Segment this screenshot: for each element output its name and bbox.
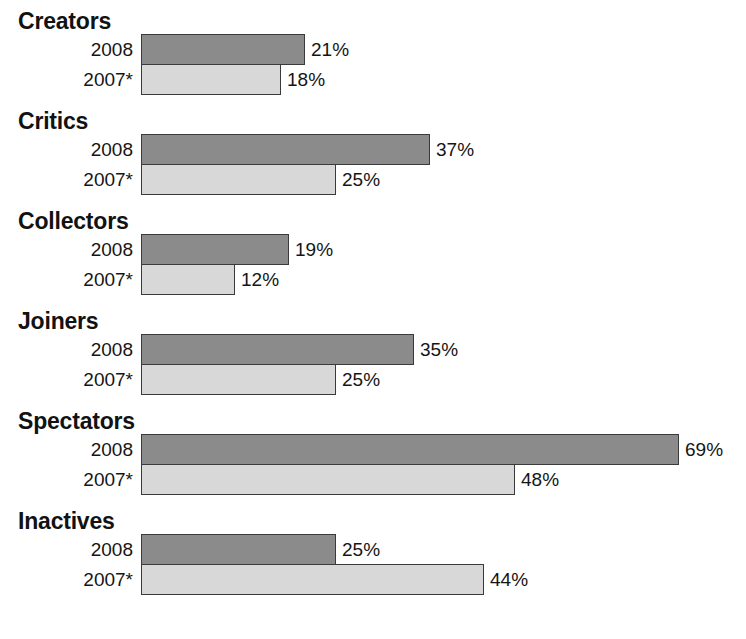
bar-row: 2007*18% xyxy=(0,64,746,95)
bar-row: 200869% xyxy=(0,434,746,465)
bar-row-label: 2007* xyxy=(0,164,133,195)
bar-row-label: 2007* xyxy=(0,64,133,95)
bar xyxy=(141,234,289,265)
bar xyxy=(141,534,336,565)
group-title: Spectators xyxy=(18,408,135,434)
bar-value-label: 37% xyxy=(430,134,474,165)
group-title: Inactives xyxy=(18,508,115,534)
bar-row-label: 2007* xyxy=(0,364,133,395)
bar xyxy=(141,564,484,595)
bar xyxy=(141,434,679,465)
bar-row: 2007*48% xyxy=(0,464,746,495)
bar-row: 200835% xyxy=(0,334,746,365)
bar-row-label: 2008 xyxy=(0,434,133,465)
bar-row-label: 2008 xyxy=(0,534,133,565)
bar xyxy=(141,464,515,495)
bar-value-label: 44% xyxy=(484,564,528,595)
bar xyxy=(141,134,430,165)
bar-row-label: 2007* xyxy=(0,264,133,295)
bar xyxy=(141,164,336,195)
bar-row: 2007*12% xyxy=(0,264,746,295)
bar xyxy=(141,364,336,395)
bar-value-label: 69% xyxy=(679,434,723,465)
bar xyxy=(141,34,305,65)
bar xyxy=(141,264,235,295)
group-title: Critics xyxy=(18,108,88,134)
bar-row-label: 2008 xyxy=(0,234,133,265)
bar-value-label: 19% xyxy=(289,234,333,265)
bar-value-label: 25% xyxy=(336,364,380,395)
group-title: Collectors xyxy=(18,208,128,234)
bar-row: 200821% xyxy=(0,34,746,65)
bar-row: 200825% xyxy=(0,534,746,565)
bar-row-label: 2008 xyxy=(0,34,133,65)
bar xyxy=(141,64,281,95)
group-title: Creators xyxy=(18,8,111,34)
bar-value-label: 12% xyxy=(235,264,279,295)
bar-value-label: 25% xyxy=(336,534,380,565)
bar-row-label: 2007* xyxy=(0,564,133,595)
bar-row: 2007*25% xyxy=(0,164,746,195)
bar xyxy=(141,334,414,365)
bar-row: 2007*44% xyxy=(0,564,746,595)
bar-row: 200837% xyxy=(0,134,746,165)
bar-row-label: 2008 xyxy=(0,334,133,365)
bar-chart-plot: Creators200821%2007*18%Critics200837%200… xyxy=(0,0,746,639)
bar-row: 200819% xyxy=(0,234,746,265)
bar-value-label: 48% xyxy=(515,464,559,495)
bar-row: 2007*25% xyxy=(0,364,746,395)
bar-value-label: 25% xyxy=(336,164,380,195)
bar-row-label: 2008 xyxy=(0,134,133,165)
bar-value-label: 18% xyxy=(281,64,325,95)
bar-value-label: 21% xyxy=(305,34,349,65)
chart-root: Creators200821%2007*18%Critics200837%200… xyxy=(0,0,746,639)
bar-value-label: 35% xyxy=(414,334,458,365)
bar-row-label: 2007* xyxy=(0,464,133,495)
group-title: Joiners xyxy=(18,308,98,334)
